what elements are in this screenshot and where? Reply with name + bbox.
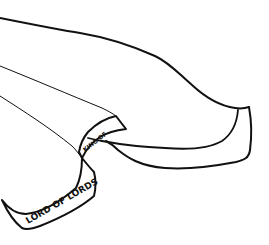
cloth-edge-line-lower <box>0 96 82 158</box>
cloth-inner-fold <box>88 110 238 149</box>
cloth-top-outline <box>0 18 249 108</box>
cloth-edge-line-upper <box>0 66 116 116</box>
cloth-right-fold <box>106 107 251 169</box>
line-drawing: LORD OF LORDS KING OF <box>0 0 269 245</box>
